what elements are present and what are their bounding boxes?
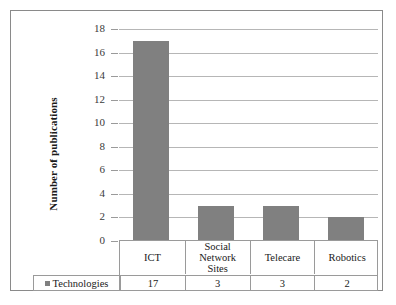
bar-column [249,29,314,241]
bar-robotics [328,217,364,241]
y-tick-label: 4 [79,186,105,201]
category-cell-ict: ICT [120,241,185,274]
category-label-line: ICT [144,252,161,263]
y-tick-label: 6 [79,162,105,177]
bar-telecare [263,206,299,241]
bar-ict [133,41,169,241]
y-tick-mark [111,217,118,218]
y-tick-label: 16 [79,45,105,60]
y-axis-title: Number of publications [45,69,61,239]
y-tick-mark [111,76,118,77]
y-tick-mark [111,123,118,124]
bar-column [313,29,378,241]
bar-column [184,29,249,241]
category-label-line: Network [199,252,236,263]
legend-entry-technologies: Technologies [34,276,120,290]
category-cell-robotics: Robotics [314,241,379,274]
category-label-line: Social [205,241,231,252]
bars-layer [119,29,378,241]
y-tick-mark [111,194,118,195]
data-table: ICTSocialNetworkSitesTelecareRobotics Te… [22,240,378,291]
y-tick-mark [111,147,118,148]
y-tick-label: 10 [79,115,105,130]
y-tick-label: 14 [79,68,105,83]
y-tick-label: 2 [79,209,105,224]
y-tick-label: 8 [79,139,105,154]
y-tick-mark [111,170,118,171]
plot-area: 181614121086420 [109,29,378,241]
chart-figure: Number of publications 181614121086420 I… [10,10,383,291]
y-tick-label: 18 [79,21,105,36]
category-label-line: Sites [207,263,227,274]
value-row: Technologies 17332 [33,275,378,291]
category-header-row: ICTSocialNetworkSitesTelecareRobotics [119,240,378,275]
legend-label: Technologies [53,278,109,289]
value-cell-social-network-sites: 3 [185,276,250,290]
bar-social-network-sites [198,206,234,241]
y-tick-label: 12 [79,92,105,107]
category-label-line: Telecare [265,252,300,263]
y-tick-mark [111,53,118,54]
bar-column [119,29,184,241]
value-cell-robotics: 2 [314,276,379,290]
y-tick-mark [111,29,118,30]
y-tick-mark [111,100,118,101]
category-label-line: Robotics [328,252,365,263]
legend-swatch-icon [45,281,50,286]
category-cell-telecare: Telecare [250,241,315,274]
value-cell-telecare: 3 [250,276,315,290]
value-cell-ict: 17 [120,276,185,290]
category-cell-social-network-sites: SocialNetworkSites [185,241,250,274]
